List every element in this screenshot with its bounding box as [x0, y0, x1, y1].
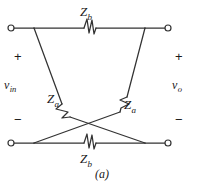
label-vo-subscript: o — [178, 84, 182, 94]
label-vo-symbol: v — [172, 78, 177, 92]
label-vin-symbol: v — [4, 78, 9, 92]
circuit-schematic — [0, 0, 215, 186]
wire-za-right-lower-segment — [34, 112, 120, 143]
label-za-left-subscript: a — [54, 99, 59, 109]
label-za-left: Za — [47, 92, 59, 109]
terminal-output-negative[interactable] — [165, 140, 171, 146]
label-za-right: Za — [124, 98, 136, 115]
terminal-input-positive[interactable] — [8, 25, 14, 31]
label-zb-bottom-subscript: b — [87, 159, 92, 169]
figure-caption: (a) — [95, 168, 109, 180]
wire-za-right-upper-segment — [127, 28, 145, 97]
terminal-input-negative[interactable] — [8, 140, 14, 146]
label-zb-bottom: Zb — [80, 152, 92, 169]
polarity-input-plus: + — [14, 50, 22, 63]
lattice-network-figure: Zb Zb Za Za + − + − vin vo (a) — [0, 0, 215, 186]
label-zb-top: Zb — [80, 5, 92, 22]
label-zb-top-subscript: b — [87, 12, 92, 22]
label-input-voltage: vin — [4, 79, 16, 94]
polarity-output-plus: + — [175, 50, 183, 63]
label-output-voltage: vo — [172, 79, 182, 94]
polarity-input-minus: − — [14, 113, 22, 126]
zigzag-zb-bottom — [84, 134, 96, 149]
label-za-right-subscript: a — [131, 105, 136, 115]
label-vin-subscript: in — [10, 84, 17, 94]
terminal-output-positive[interactable] — [165, 25, 171, 31]
wire-za-left-lower-segment — [70, 117, 145, 143]
polarity-output-minus: − — [175, 113, 183, 126]
